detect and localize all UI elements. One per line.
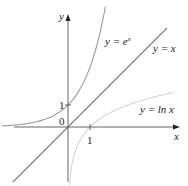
x-tick-label-1: 1	[87, 134, 93, 146]
x-axis-label: x	[173, 130, 179, 142]
x-axis-arrow-icon	[173, 125, 180, 130]
y-axis-arrow-icon	[66, 14, 71, 21]
ln-curve-label: y = ln x	[139, 103, 174, 115]
y-tick-label-1: 1	[59, 99, 65, 111]
graph: y x 0 1 1 y = ex y = x y = ln x	[0, 0, 188, 186]
y-axis-label: y	[58, 10, 64, 22]
origin-label: 0	[59, 115, 65, 127]
identity-line-label: y = x	[152, 42, 176, 54]
exp-curve	[2, 7, 105, 126]
exp-curve-label: y = ex	[104, 35, 132, 47]
